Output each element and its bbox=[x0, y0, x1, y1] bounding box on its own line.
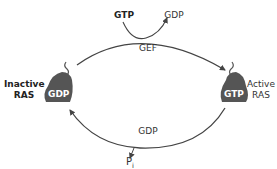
gdp-bottom-label: GDP bbox=[136, 126, 160, 137]
active-ras-label-line2: RAS bbox=[246, 90, 276, 101]
active-ras-label-line1: Active bbox=[246, 79, 276, 90]
gtp-gdp-exchange-arrow bbox=[123, 18, 167, 39]
gef-label: GEF bbox=[137, 43, 159, 54]
gdp-output-label: GDP bbox=[162, 10, 186, 21]
inactive-ras-label-line2: RAS bbox=[4, 90, 44, 101]
inactive-gdp-label: GDP bbox=[48, 89, 69, 99]
active-gtp-label: GTP bbox=[224, 89, 244, 99]
gtp-input-label: GTP bbox=[112, 10, 136, 21]
inactive-ras-label-line1: Inactive bbox=[4, 79, 44, 90]
pi-label: Pi bbox=[122, 156, 138, 169]
